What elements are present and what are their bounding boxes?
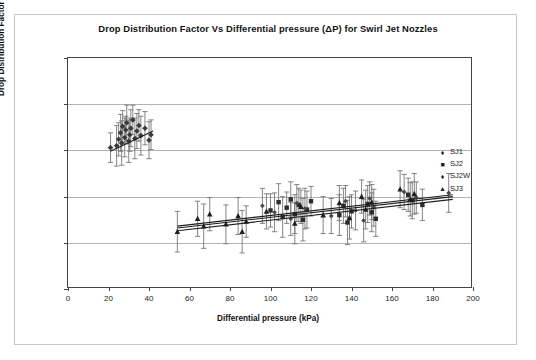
chart-title: Drop Distribution Factor Vs Differential…	[0, 23, 536, 34]
triangle-marker	[337, 200, 343, 205]
x-tick-mark	[473, 287, 474, 291]
diamond-small-marker	[402, 190, 407, 195]
legend-item-sj3: ▲SJ3	[438, 183, 470, 195]
diamond-marker: ♦	[438, 149, 447, 156]
legend-item-sj2w: ♦SJ2W	[438, 170, 470, 182]
x-tick-label: 120	[291, 294, 331, 303]
square-marker	[289, 197, 293, 201]
legend-item-sj1: ♦SJ1	[438, 146, 470, 158]
square-marker	[370, 210, 374, 214]
square-marker	[309, 199, 313, 203]
square-marker	[285, 205, 289, 209]
triangle-marker	[195, 216, 201, 221]
square-marker	[406, 193, 410, 197]
trendline-sj2	[177, 195, 452, 226]
trendline-sj2w	[177, 199, 452, 230]
triangle-marker: ▲	[438, 185, 447, 192]
plot-area: 3.544.555.56 020406080100120140160180200…	[67, 57, 472, 288]
diamond-marker	[123, 127, 129, 133]
diamond-marker	[142, 125, 148, 131]
diamond-small-marker	[260, 203, 265, 208]
triangle-marker	[207, 211, 213, 216]
x-axis-title: Differential pressure (kPa)	[0, 314, 536, 323]
trendline-sj3	[177, 197, 452, 228]
legend-label: SJ1	[450, 146, 463, 158]
x-tick-label: 0	[48, 294, 88, 303]
square-marker	[345, 220, 349, 224]
triangle-marker	[175, 229, 181, 234]
x-tick-label: 40	[129, 294, 169, 303]
triangle-marker	[359, 194, 365, 199]
triangle-marker	[239, 229, 245, 234]
x-tick-label: 20	[89, 294, 129, 303]
square-marker	[268, 208, 272, 212]
square-marker	[276, 200, 280, 204]
triangle-marker	[397, 186, 403, 191]
error-bars-sj3	[175, 171, 417, 253]
square-marker	[301, 218, 305, 222]
diamond-marker	[108, 145, 114, 151]
scatter-plot-layer	[68, 58, 473, 289]
triangle-marker	[235, 213, 241, 218]
diamond-small-marker	[329, 214, 334, 219]
legend-label: SJ3	[450, 183, 463, 195]
x-tick-label: 140	[332, 294, 372, 303]
x-tick-label: 200	[453, 294, 493, 303]
chart-legend: ♦SJ1■SJ2♦SJ2W▲SJ3	[438, 146, 470, 195]
legend-label: SJ2W	[450, 170, 470, 182]
square-marker	[337, 213, 341, 217]
x-tick-label: 180	[413, 294, 453, 303]
legend-label: SJ2	[450, 158, 463, 170]
diamond-marker	[127, 132, 133, 138]
x-tick-label: 80	[210, 294, 250, 303]
x-tick-label: 100	[251, 294, 291, 303]
diamond-small-marker	[272, 210, 277, 215]
square-marker: ■	[438, 161, 447, 168]
y-axis-title: Drop Distribution Factor	[0, 1, 6, 96]
legend-item-sj2: ■SJ2	[438, 158, 470, 170]
x-tick-label: 160	[372, 294, 412, 303]
diamond-small-marker: ♦	[438, 173, 447, 180]
square-marker	[374, 217, 378, 221]
x-tick-label: 60	[170, 294, 210, 303]
